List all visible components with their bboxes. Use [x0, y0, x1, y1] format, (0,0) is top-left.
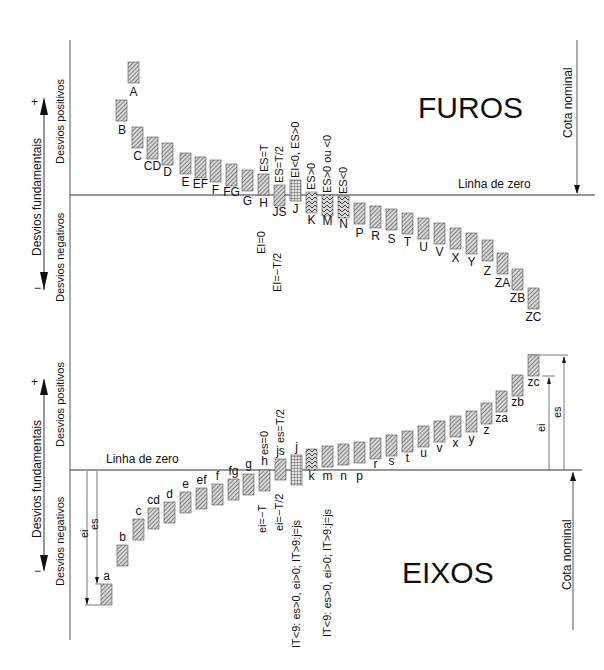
- deviation-bar-X: [450, 228, 461, 249]
- deviation-bar-H: [258, 174, 269, 195]
- annotation-h-top: es=0: [258, 431, 270, 455]
- deviation-bar-N: [338, 196, 349, 218]
- arrow-up-icon: [547, 377, 551, 384]
- holes-panel: Linha de zero FUROS Cota nominal + − Des…: [30, 40, 595, 330]
- deviation-bar-C: [132, 127, 143, 148]
- deviation-bar-Z: [482, 240, 493, 261]
- deviation-bar-B: [116, 100, 127, 121]
- deviation-bar-label: EF: [193, 177, 208, 191]
- zc-ei-label: ei: [535, 423, 547, 432]
- holes-title: FUROS: [418, 91, 523, 124]
- deviation-bar-a: [101, 584, 112, 605]
- deviation-bar-label: J: [293, 202, 299, 216]
- annotation-js-top: es=T/2: [274, 409, 286, 443]
- holes-minus-sign: −: [34, 281, 41, 295]
- deviation-bar-label: C: [133, 149, 142, 163]
- deviation-bar-label: R: [371, 229, 380, 243]
- deviation-bar-R: [370, 206, 381, 228]
- deviation-bar-K: [306, 192, 317, 213]
- deviation-bar-e: [180, 492, 191, 513]
- deviation-bar-label: u: [420, 446, 427, 460]
- deviation-bar-label: ef: [196, 473, 207, 487]
- shafts-nominal-label: Cota nominal: [560, 519, 574, 590]
- deviation-bar-G: [242, 170, 253, 191]
- annotation-J-top: EI<0, ES>0: [289, 122, 301, 178]
- deviation-bar-V: [434, 223, 445, 244]
- shafts-positive-label: Desvios positivos: [54, 362, 66, 447]
- deviation-bar-F: [210, 160, 221, 182]
- deviation-bar-label: F: [212, 183, 219, 197]
- arrow-up-icon: [40, 378, 48, 395]
- deviation-bar-r: [370, 438, 381, 459]
- deviation-bar-label: r: [374, 457, 378, 471]
- deviation-bar-v: [434, 421, 445, 442]
- annotation-js-bottom: ei=−T/2: [273, 494, 285, 531]
- deviation-bar-zb: [512, 375, 523, 396]
- deviation-bar-E: [180, 153, 191, 174]
- deviation-bar-label: a: [103, 569, 110, 583]
- deviation-bar-label: t: [406, 451, 410, 465]
- deviation-bar-label: c: [136, 504, 142, 518]
- deviation-bar-label: zc: [528, 375, 540, 389]
- deviation-bar-label: S: [387, 232, 395, 246]
- arrow-down-icon: [574, 185, 580, 194]
- arrow-down-icon: [85, 598, 89, 605]
- deviation-bar-b: [117, 545, 128, 566]
- annotation-j-bottom: IT<9: es>0, ei>0; IT>9:j=js: [290, 519, 302, 648]
- deviation-bar-c: [133, 519, 144, 540]
- deviation-bar-z: [481, 403, 492, 424]
- deviation-bar-Y: [466, 233, 477, 254]
- deviation-bar-label: P: [355, 226, 363, 240]
- deviation-bar-label: p: [356, 469, 363, 483]
- deviation-bar-A: [128, 62, 139, 83]
- deviation-bar-k: [306, 449, 317, 470]
- holes-nominal-label: Cota nominal: [561, 67, 575, 138]
- deviation-bar-label: h: [261, 454, 268, 468]
- deviation-bar-label: T: [404, 235, 412, 249]
- deviation-bar-label: H: [259, 196, 268, 210]
- annotation-M-top: ES>0 ou <0: [321, 135, 333, 193]
- annotation-JS-bottom: EI=−T/2: [271, 253, 283, 292]
- deviation-bar-cd: [148, 508, 159, 529]
- shafts-negative-label: Desvios negativos: [54, 496, 66, 586]
- annotation-h-bottom: ei=−T: [256, 505, 268, 533]
- deviation-bar-m: [322, 446, 333, 467]
- deviation-bar-label: j: [294, 440, 298, 454]
- deviation-bar-label: ZB: [510, 291, 525, 305]
- deviation-bar-ZA: [497, 253, 508, 274]
- deviation-bar-n: [338, 444, 349, 465]
- deviation-bar-J: [290, 180, 301, 201]
- deviation-bar-label: G: [243, 194, 252, 208]
- deviation-bar-label: A: [129, 85, 137, 99]
- deviation-bar-label: b: [119, 530, 126, 544]
- annotation-H-top: ES=T: [258, 144, 270, 172]
- deviation-bar-h: [259, 470, 270, 491]
- holes-positive-label: Desvios positivos: [54, 79, 66, 164]
- shafts-plus-sign: +: [31, 375, 38, 389]
- deviation-bar-U: [418, 218, 429, 239]
- deviation-bar-label: JS: [272, 205, 286, 219]
- deviation-bar-x: [450, 416, 461, 437]
- deviation-bar-label: N: [339, 217, 348, 231]
- deviation-bar-label: Z: [484, 264, 491, 278]
- deviation-bar-M: [322, 195, 333, 216]
- deviation-bar-label: x: [453, 436, 459, 450]
- deviation-bar-label: ZC: [526, 310, 542, 324]
- shafts-axis-label: Desvios fundamentais: [30, 420, 44, 538]
- shafts-panel: Linha de zero EIXOS Cota nominal ei es e…: [30, 330, 582, 648]
- deviation-bar-JS: [274, 185, 285, 206]
- deviation-bar-f: [212, 484, 223, 505]
- deviation-bar-T: [402, 213, 413, 234]
- deviation-bar-label: zb: [511, 395, 524, 409]
- deviation-bar-t: [402, 431, 413, 452]
- annotation-H-bottom: EI=0: [255, 231, 267, 254]
- deviation-bar-label: v: [437, 441, 443, 455]
- deviation-bar-js: [275, 459, 286, 480]
- a-es-label: es: [88, 518, 100, 530]
- arrow-up-icon: [562, 356, 566, 363]
- annotation-m-bottom: IT<9: es>0, ei>0; IT>9:j=js: [321, 508, 333, 637]
- deviation-bar-label: FG: [223, 185, 240, 199]
- zc-es-label: es: [551, 406, 563, 418]
- deviation-bar-s: [386, 435, 397, 456]
- deviation-bar-ef: [196, 488, 207, 509]
